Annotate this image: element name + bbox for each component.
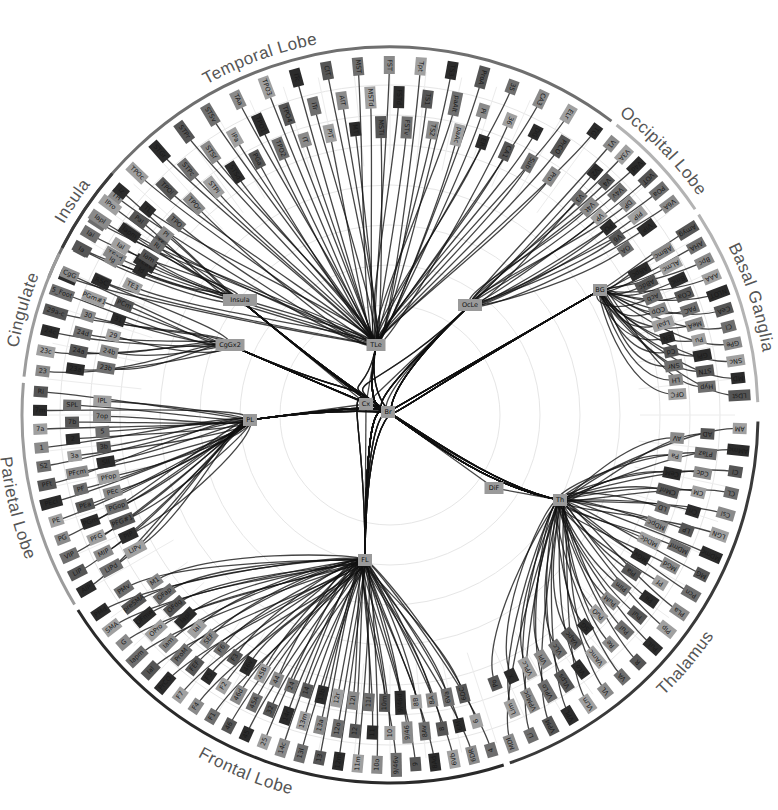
region-node[interactable]: 23c: [36, 344, 56, 358]
region-node[interactable]: COp: [648, 302, 669, 319]
region-node[interactable]: IPL: [93, 395, 112, 407]
region-node[interactable]: MDpc: [644, 515, 669, 534]
region-node[interactable]: NLOT: [706, 284, 730, 302]
region-node[interactable]: 46v: [239, 655, 257, 676]
region-node[interactable]: CeA: [714, 302, 734, 318]
region-node[interactable]: VPLc: [517, 656, 537, 681]
region-node[interactable]: CL: [723, 486, 739, 500]
region-node[interactable]: ProA: [474, 65, 490, 89]
region-node[interactable]: POa: [649, 181, 670, 201]
region-node[interactable]: 13a: [313, 715, 328, 735]
region-node[interactable]: PEc: [102, 484, 122, 499]
region-node[interactable]: Li: [523, 727, 539, 744]
region-node[interactable]: Pi: [476, 103, 491, 120]
region-node[interactable]: PEci: [39, 495, 63, 511]
region-node[interactable]: PG: [54, 531, 71, 546]
region-node[interactable]: Cd: [663, 345, 679, 359]
region-node[interactable]: Lpal: [651, 315, 675, 332]
region-node[interactable]: PF: [73, 482, 89, 496]
region-node[interactable]: GPe: [723, 336, 743, 350]
region-node[interactable]: 12m: [332, 752, 346, 771]
region-node[interactable]: F1: [204, 708, 221, 726]
region-node[interactable]: paAc: [450, 123, 466, 147]
region-node[interactable]: PFG: [86, 529, 107, 546]
region-node[interactable]: V6A: [659, 194, 680, 214]
region-node[interactable]: 29a-c: [42, 303, 68, 321]
region-node[interactable]: Amyg: [675, 220, 699, 241]
region-node[interactable]: 7a: [33, 423, 47, 435]
region-node[interactable]: OFmw: [133, 606, 157, 628]
region-node[interactable]: Iapm: [125, 645, 149, 668]
region-node[interactable]: S2: [36, 460, 51, 473]
region-node[interactable]: Cl: [728, 465, 744, 478]
region-node[interactable]: VLm: [578, 693, 597, 714]
region-node[interactable]: AV: [670, 432, 685, 444]
region-node[interactable]: STSv: [200, 102, 221, 127]
region-node[interactable]: V1: [603, 135, 620, 153]
region-node[interactable]: 35: [504, 78, 519, 95]
region-node[interactable]: CA1: [498, 141, 515, 162]
region-node[interactable]: LIPd: [99, 558, 124, 578]
region-node[interactable]: Pa: [667, 449, 682, 462]
region-node[interactable]: Csl: [716, 506, 736, 522]
region-node[interactable]: 23: [35, 365, 50, 378]
region-node[interactable]: AAA: [701, 268, 722, 285]
region-node[interactable]: MSTl: [375, 116, 387, 138]
region-node[interactable]: PMv: [113, 580, 134, 599]
region-node[interactable]: Plm: [611, 577, 632, 597]
region-node[interactable]: 8B: [410, 694, 422, 709]
region-node[interactable]: 13m: [296, 711, 311, 731]
region-node[interactable]: 3a: [67, 450, 82, 463]
region-node[interactable]: 10o: [371, 756, 383, 774]
region-node[interactable]: MST: [352, 57, 365, 76]
region-node[interactable]: MIP: [93, 544, 114, 562]
region-node[interactable]: PE: [48, 513, 65, 528]
region-node[interactable]: 24a: [69, 344, 89, 358]
region-node[interactable]: VPL: [560, 705, 579, 726]
region-node[interactable]: AD: [700, 428, 715, 440]
region-node[interactable]: SII: [96, 455, 116, 469]
region-node[interactable]: VA: [613, 668, 631, 686]
region-node[interactable]: PGop: [105, 498, 129, 515]
region-node[interactable]: MeA: [685, 317, 705, 333]
region-node[interactable]: MDmc: [699, 545, 724, 564]
region-node[interactable]: G: [115, 634, 133, 651]
region-node[interactable]: LD: [654, 500, 671, 515]
region-node[interactable]: STSd: [224, 160, 245, 184]
region-node[interactable]: ITr: [307, 96, 322, 116]
region-node[interactable]: X: [504, 667, 520, 684]
region-node[interactable]: DG: [528, 124, 544, 141]
region-node[interactable]: VPI: [533, 649, 552, 670]
region-node[interactable]: AHA: [686, 236, 707, 254]
region-node[interactable]: OFC: [668, 388, 687, 400]
region-node[interactable]: PrCO: [550, 134, 571, 158]
region-node[interactable]: VIP: [59, 547, 80, 564]
region-node[interactable]: STPr: [173, 120, 195, 144]
region-node[interactable]: MDl: [503, 733, 520, 754]
region-node[interactable]: 7m: [33, 405, 47, 416]
region-node[interactable]: PFcm: [65, 465, 89, 480]
region-node[interactable]: LDst: [728, 389, 751, 401]
region-node[interactable]: 14: [299, 682, 314, 699]
region-node[interactable]: 14r: [279, 705, 295, 726]
region-node[interactable]: MT: [349, 122, 362, 137]
region-node[interactable]: SPL: [63, 399, 81, 411]
region-node[interactable]: Bpc: [694, 252, 715, 270]
region-node[interactable]: TG: [586, 122, 603, 140]
region-node[interactable]: 6DR: [465, 745, 480, 765]
region-node[interactable]: TAa: [229, 89, 247, 110]
region-node[interactable]: F5: [200, 667, 217, 685]
region-node[interactable]: 6M: [452, 717, 466, 733]
region-node[interactable]: 36: [502, 112, 517, 129]
region-node[interactable]: Tpt: [414, 57, 427, 76]
region-node[interactable]: 24b: [99, 344, 119, 359]
region-node[interactable]: AIT: [335, 91, 349, 110]
region-node[interactable]: 9: [410, 757, 422, 772]
region-node[interactable]: 7op: [93, 411, 111, 422]
region-node[interactable]: 4: [484, 742, 499, 759]
region-node[interactable]: EN: [659, 330, 675, 344]
region-node[interactable]: LH: [668, 374, 683, 387]
region-node[interactable]: F4: [188, 697, 205, 715]
region-node[interactable]: 25: [257, 733, 272, 750]
region-node[interactable]: MG: [693, 566, 710, 582]
